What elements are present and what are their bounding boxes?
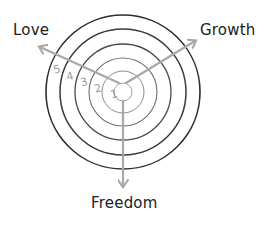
love-label: Love <box>13 23 49 38</box>
freedom-label: Freedom <box>91 196 158 211</box>
scale-5: 5 <box>52 62 62 76</box>
scale-3: 3 <box>79 75 89 89</box>
scale-1: 1 <box>109 87 119 101</box>
scale-4: 4 <box>65 69 75 83</box>
growth-label: Growth <box>200 23 256 38</box>
scale-2: 2 <box>93 81 103 95</box>
